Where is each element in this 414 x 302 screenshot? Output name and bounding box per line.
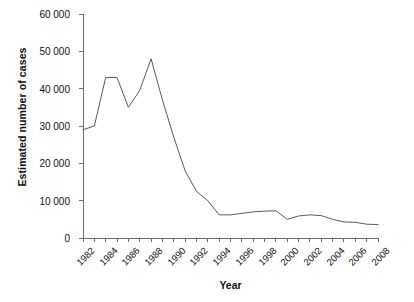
x-axis-title: Year [83,279,378,291]
line-chart: Estimated number of cases 010 00020 0003… [0,0,414,302]
x-axis-tick-labels: 1982198419861988199019921994199619982000… [0,0,414,302]
